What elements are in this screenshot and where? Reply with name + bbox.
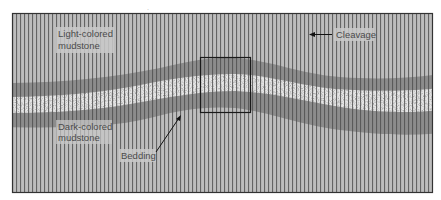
light-mudstone-label-line1: Light-colored bbox=[58, 28, 113, 39]
dark-mudstone-label: Dark-colored mudstone bbox=[56, 120, 112, 144]
bedding-label-text: Bedding bbox=[121, 150, 156, 161]
top-mark: · bbox=[147, 6, 149, 12]
cleavage-bedding-diagram: Light-colored mudstone Cleavage Dark-col… bbox=[0, 0, 441, 200]
light-mudstone-label-line2: mudstone bbox=[58, 40, 100, 51]
light-mudstone-label: Light-colored mudstone bbox=[56, 27, 114, 53]
dark-mudstone-label-line1: Dark-colored bbox=[58, 121, 112, 132]
dark-mudstone-label-line2: mudstone bbox=[58, 132, 100, 143]
cleavage-label-text: Cleavage bbox=[336, 29, 376, 40]
